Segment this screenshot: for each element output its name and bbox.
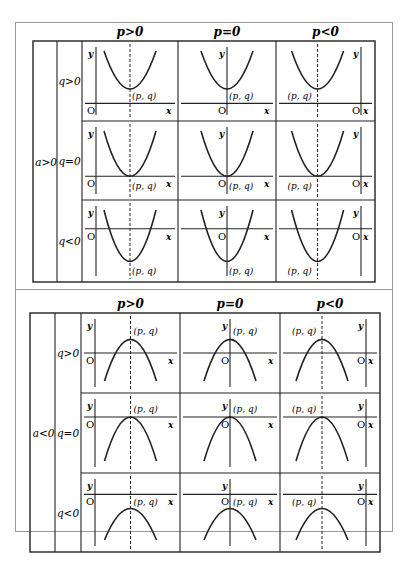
y-axis-label: y bbox=[218, 49, 225, 59]
origin-label: O bbox=[221, 419, 229, 430]
graph-cell: yxO(p, q) bbox=[183, 319, 277, 387]
x-axis-label: x bbox=[362, 106, 369, 116]
y-axis-label: y bbox=[86, 481, 93, 491]
column-header: p=0 bbox=[217, 297, 244, 311]
graph-cell: yxO(p, q) bbox=[85, 124, 175, 197]
vertex-label: (p, q) bbox=[233, 404, 258, 414]
parabola-diagram: p>0p=0p<0a>0q>0yxO(p, q)yxO(p, q)yxO(p, … bbox=[0, 0, 409, 571]
vertex-label: (p, q) bbox=[233, 326, 258, 336]
column-header: p<0 bbox=[317, 297, 344, 311]
y-axis-label: y bbox=[352, 208, 359, 218]
q-sign-label: q=0 bbox=[57, 427, 80, 439]
vertex-label: (p, q) bbox=[134, 497, 159, 507]
column-header: p>0 bbox=[117, 297, 144, 311]
origin-label: O bbox=[86, 496, 94, 507]
origin-label: O bbox=[218, 178, 226, 189]
origin-label: O bbox=[86, 419, 94, 430]
x-axis-label: x bbox=[263, 179, 270, 189]
y-axis-label: y bbox=[352, 129, 359, 139]
y-axis-label: y bbox=[87, 208, 94, 218]
vertex-label: (p, q) bbox=[132, 181, 157, 191]
y-axis-label: y bbox=[218, 208, 225, 218]
parabola-curve bbox=[105, 339, 157, 381]
origin-label: O bbox=[352, 178, 360, 189]
vertex-label: (p, q) bbox=[292, 326, 317, 336]
graph-cell: yxO(p, q) bbox=[84, 396, 177, 470]
origin-label: O bbox=[357, 419, 365, 430]
origin-label: O bbox=[221, 496, 229, 507]
y-axis-label: y bbox=[86, 401, 93, 411]
origin-label: O bbox=[87, 231, 95, 242]
vertex-label: (p, q) bbox=[229, 91, 254, 101]
vertex-label: (p, q) bbox=[134, 326, 159, 336]
q-sign-label: q=0 bbox=[58, 155, 81, 167]
origin-label: O bbox=[86, 355, 94, 366]
x-axis-label: x bbox=[167, 497, 174, 507]
y-axis-label: y bbox=[357, 321, 364, 331]
y-axis-label: y bbox=[87, 129, 94, 139]
x-axis-label: x bbox=[267, 420, 274, 430]
q-sign-label: q>0 bbox=[58, 75, 81, 87]
y-axis-label: y bbox=[218, 129, 225, 139]
vertex-label: (p, q) bbox=[132, 91, 157, 101]
x-axis-label: x bbox=[367, 497, 374, 507]
x-axis-label: x bbox=[167, 420, 174, 430]
x-axis-label: x bbox=[267, 497, 274, 507]
graph-cell: yxO(p, q) bbox=[279, 203, 372, 279]
x-axis-label: x bbox=[367, 420, 374, 430]
origin-label: O bbox=[357, 355, 365, 366]
table-border bbox=[30, 313, 380, 552]
y-axis-label: y bbox=[221, 401, 228, 411]
graph-cell: yxO(p, q) bbox=[85, 203, 175, 279]
q-sign-label: q<0 bbox=[58, 235, 81, 247]
x-axis-label: x bbox=[167, 356, 174, 366]
y-axis-label: y bbox=[357, 481, 364, 491]
graph-cell: yxO(p, q) bbox=[283, 396, 377, 470]
graph-cell: yxO(p, q) bbox=[181, 127, 273, 194]
x-axis-label: x bbox=[267, 356, 274, 366]
q-sign-label: q<0 bbox=[57, 507, 80, 519]
vertex-label: (p, q) bbox=[292, 404, 317, 414]
y-axis-label: y bbox=[221, 481, 228, 491]
origin-label: O bbox=[221, 355, 229, 366]
graph-cell: yxO(p, q) bbox=[181, 47, 273, 116]
y-axis-label: y bbox=[352, 49, 359, 59]
x-axis-label: x bbox=[263, 106, 270, 116]
top-panel: p>0p=0p<0a>0q>0yxO(p, q)yxO(p, q)yxO(p, … bbox=[33, 25, 375, 282]
origin-label: O bbox=[87, 105, 95, 116]
y-axis-label: y bbox=[86, 321, 93, 331]
x-axis-label: x bbox=[362, 179, 369, 189]
column-header: p<0 bbox=[312, 25, 339, 39]
graph-cell: yxO(p, q) bbox=[84, 316, 177, 390]
vertex-label: (p, q) bbox=[132, 266, 157, 276]
graph-cell: yxO(p, q) bbox=[283, 476, 377, 549]
vertex-label: (p, q) bbox=[288, 181, 313, 191]
origin-label: O bbox=[352, 231, 360, 242]
x-axis-label: x bbox=[263, 232, 270, 242]
table-border bbox=[33, 41, 375, 282]
origin-label: O bbox=[357, 496, 365, 507]
y-axis-label: y bbox=[87, 49, 94, 59]
x-axis-label: x bbox=[367, 356, 374, 366]
vertex-label: (p, q) bbox=[229, 181, 254, 191]
graph-cell: yxO(p, q) bbox=[279, 44, 372, 118]
a-sign-label: a>0 bbox=[35, 156, 57, 168]
vertex-label: (p, q) bbox=[292, 497, 317, 507]
y-axis-label: y bbox=[357, 401, 364, 411]
x-axis-label: x bbox=[362, 232, 369, 242]
vertex-label: (p, q) bbox=[288, 91, 313, 101]
vertex-label: (p, q) bbox=[288, 266, 313, 276]
graph-cell: yxO(p, q) bbox=[183, 399, 277, 467]
y-axis-label: y bbox=[221, 321, 228, 331]
graph-cell: yxO(p, q) bbox=[181, 206, 273, 276]
vertex-label: (p, q) bbox=[229, 266, 254, 276]
graph-cell: yxO(p, q) bbox=[183, 479, 277, 546]
graph-cell: yxO(p, q) bbox=[85, 44, 175, 118]
vertex-label: (p, q) bbox=[134, 404, 159, 414]
x-axis-label: x bbox=[165, 179, 172, 189]
bottom-panel: p>0p=0p<0a<0q>0yxO(p, q)yxO(p, q)yxO(p, … bbox=[30, 297, 380, 552]
graph-cell: yxO(p, q) bbox=[279, 124, 372, 197]
column-header: p=0 bbox=[214, 25, 241, 39]
origin-label: O bbox=[218, 105, 226, 116]
a-sign-label: a<0 bbox=[33, 427, 55, 439]
